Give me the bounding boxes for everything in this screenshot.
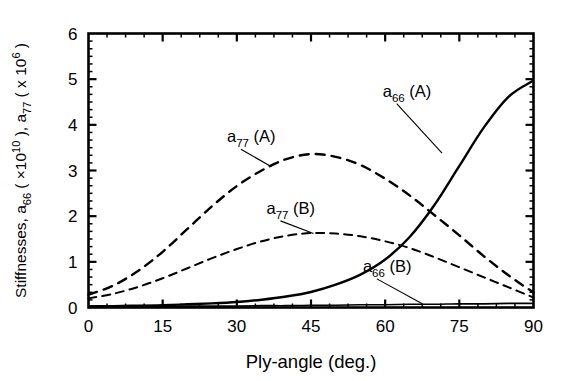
- x-tick-label: 60: [376, 317, 395, 336]
- x-axis-title-text: Ply-angle (deg.): [246, 351, 377, 372]
- x-tick-label: 45: [302, 317, 321, 336]
- y-tick-label: 6: [68, 25, 77, 44]
- x-tick-label: 90: [524, 317, 543, 336]
- x-tick-label: 15: [153, 317, 172, 336]
- y-tick-label: 5: [68, 70, 77, 89]
- y-tick-label: 1: [68, 253, 77, 272]
- x-tick-label: 0: [84, 317, 93, 336]
- chart-figure-root: 0153045607590 0123456 a66 (A)a66 (B)a77 …: [0, 0, 561, 381]
- x-axis-title: Ply-angle (deg.): [246, 351, 377, 372]
- y-tick-label: 4: [68, 116, 77, 135]
- y-tick-label: 0: [68, 299, 77, 318]
- stiffness-vs-ply-angle-chart: 0153045607590 0123456 a66 (A)a66 (B)a77 …: [0, 0, 561, 381]
- y-tick-label: 2: [68, 207, 77, 226]
- y-tick-label: 3: [68, 162, 77, 181]
- x-tick-label: 30: [227, 317, 246, 336]
- x-tick-label: 75: [450, 317, 469, 336]
